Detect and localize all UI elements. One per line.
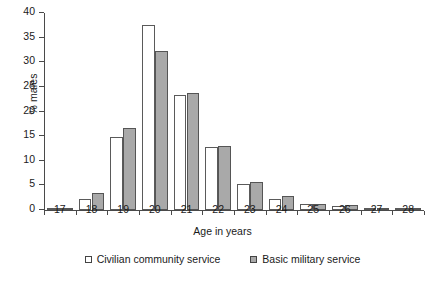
bar bbox=[187, 93, 200, 210]
x-tick-label: 23 bbox=[235, 203, 265, 215]
legend-entry-civilian: Civilian community service bbox=[85, 253, 221, 265]
legend-entry-military: Basic military service bbox=[250, 253, 360, 265]
bar-group bbox=[47, 13, 73, 210]
x-tick bbox=[424, 211, 425, 215]
x-tick-label: 22 bbox=[203, 203, 233, 215]
y-tick: 35 bbox=[39, 37, 44, 38]
y-tick-label: 30 bbox=[23, 54, 35, 66]
open-square-marker-icon bbox=[85, 256, 92, 263]
x-tick-label: 26 bbox=[330, 203, 360, 215]
bar-group bbox=[300, 13, 326, 210]
bar-group bbox=[364, 13, 390, 210]
x-tick-label: 17 bbox=[45, 203, 75, 215]
y-tick-label: 15 bbox=[23, 128, 35, 140]
bar bbox=[155, 51, 168, 210]
plot-area: 0510152025303540 bbox=[44, 13, 424, 211]
x-axis-title: Age in years bbox=[0, 225, 445, 237]
y-tick-label: 35 bbox=[23, 30, 35, 42]
bar-group bbox=[395, 13, 421, 210]
x-tick-label: 27 bbox=[362, 203, 392, 215]
y-tick: 30 bbox=[39, 61, 44, 62]
y-tick: 15 bbox=[39, 135, 44, 136]
y-tick-label: 0 bbox=[29, 202, 35, 214]
bar bbox=[142, 25, 155, 210]
bar-group bbox=[332, 13, 358, 210]
y-tick: 0 bbox=[39, 209, 44, 210]
y-tick: 5 bbox=[39, 184, 44, 185]
bar-group bbox=[142, 13, 168, 210]
bar-group bbox=[79, 13, 105, 210]
x-tick-label: 25 bbox=[298, 203, 328, 215]
y-tick-label: 10 bbox=[23, 153, 35, 165]
y-tick-label: 5 bbox=[29, 177, 35, 189]
bar-chart: % males 0510152025303540 171819202122232… bbox=[0, 0, 445, 282]
bar-group bbox=[174, 13, 200, 210]
filled-square-marker-icon bbox=[250, 256, 257, 263]
y-tick: 25 bbox=[39, 86, 44, 87]
bar bbox=[218, 146, 231, 210]
x-tick-label: 28 bbox=[393, 203, 423, 215]
y-tick-label: 25 bbox=[23, 79, 35, 91]
x-tick-label: 20 bbox=[140, 203, 170, 215]
bar bbox=[123, 128, 136, 210]
y-tick: 10 bbox=[39, 160, 44, 161]
legend-label-military: Basic military service bbox=[262, 253, 360, 265]
y-tick: 20 bbox=[39, 111, 44, 112]
x-tick-label: 21 bbox=[172, 203, 202, 215]
bar bbox=[110, 137, 123, 210]
y-tick: 40 bbox=[39, 12, 44, 13]
bar-group bbox=[269, 13, 295, 210]
y-axis-line bbox=[44, 13, 45, 212]
bar-group bbox=[205, 13, 231, 210]
bar-group bbox=[237, 13, 263, 210]
legend-label-civilian: Civilian community service bbox=[97, 253, 221, 265]
y-tick-label: 40 bbox=[23, 5, 35, 17]
bar bbox=[205, 147, 218, 210]
y-tick-label: 20 bbox=[23, 104, 35, 116]
x-tick-label: 24 bbox=[267, 203, 297, 215]
x-tick-label: 18 bbox=[77, 203, 107, 215]
bar-group bbox=[110, 13, 136, 210]
x-tick-label: 19 bbox=[108, 203, 138, 215]
chart-legend: Civilian community service Basic militar… bbox=[0, 253, 445, 265]
bar bbox=[174, 95, 187, 210]
